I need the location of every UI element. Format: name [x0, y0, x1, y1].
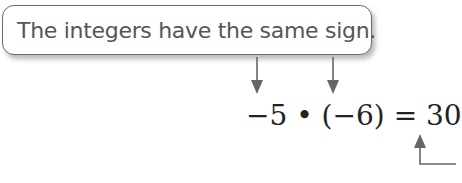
- equation: −5 • (−6) = 30: [246, 96, 462, 136]
- operand-second: (−6): [322, 99, 385, 132]
- multiplication-dot: •: [296, 99, 313, 132]
- arrow-to-product-icon: [414, 134, 456, 164]
- product-result: 30: [426, 99, 462, 132]
- arrow-to-first-integer-icon: [251, 57, 263, 94]
- operand-first: −5: [246, 99, 287, 132]
- arrow-to-second-integer-icon: [327, 57, 339, 94]
- equals-sign: =: [394, 99, 417, 132]
